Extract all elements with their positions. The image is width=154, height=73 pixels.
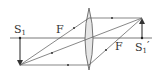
ray-arrow-marker	[73, 27, 75, 29]
image-base-dot	[141, 37, 143, 39]
focus-left-label: F	[56, 23, 64, 36]
ray-arrow-marker	[111, 17, 113, 19]
object-label: S1	[14, 23, 26, 37]
ray-diagram: S1 F F S1′	[0, 0, 154, 73]
ray-arrow-marker	[51, 52, 53, 54]
convex-lens	[85, 8, 93, 70]
image-label: S1′	[135, 39, 150, 55]
ray-through-center	[20, 18, 142, 65]
ray-through-focus-in	[20, 18, 89, 65]
ray-arrow-marker	[105, 49, 107, 51]
object-base-dot	[19, 37, 21, 39]
focus-right-label: F	[115, 40, 123, 53]
ray-arrow-marker	[67, 64, 69, 66]
